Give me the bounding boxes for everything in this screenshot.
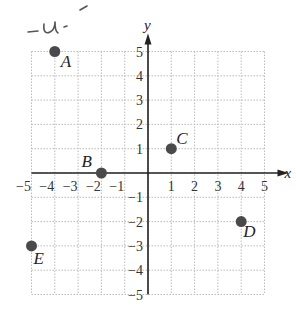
x-tick-label: 1 xyxy=(168,179,175,194)
point-label-b: B xyxy=(81,152,92,171)
y-tick-label: −5 xyxy=(128,288,143,303)
x-tick-label: −1 xyxy=(109,179,124,194)
y-tick-label: 4 xyxy=(136,69,143,84)
point-label-d: D xyxy=(242,222,256,241)
data-point-a xyxy=(49,46,60,57)
point-label-e: E xyxy=(33,249,45,268)
y-tick-label: −2 xyxy=(128,215,143,230)
x-tick-label: 3 xyxy=(214,179,221,194)
coordinate-plane: xy−5−4−3−2−11234554321−1−2−3−4−5ABCDE xyxy=(0,0,296,311)
y-tick-label: 5 xyxy=(136,45,143,60)
x-tick-label: 4 xyxy=(238,179,245,194)
y-tick-label: −3 xyxy=(128,239,143,254)
point-label-a: A xyxy=(60,52,72,71)
x-tick-label: −3 xyxy=(63,179,78,194)
data-point-b xyxy=(96,168,107,179)
x-tick-label: −4 xyxy=(39,179,54,194)
y-axis-arrow-icon xyxy=(145,34,152,45)
x-axis-label: x xyxy=(284,165,292,181)
x-tick-label: 2 xyxy=(191,179,198,194)
y-tick-label: 2 xyxy=(136,117,143,132)
point-label-c: C xyxy=(176,129,188,148)
y-tick-label: −1 xyxy=(128,190,143,205)
y-tick-label: −4 xyxy=(128,263,143,278)
data-point-c xyxy=(166,143,177,154)
x-tick-label: −5 xyxy=(16,179,31,194)
x-tick-label: −2 xyxy=(86,179,101,194)
handwritten-annotation xyxy=(28,6,87,33)
y-tick-label: 3 xyxy=(136,93,143,108)
y-tick-label: 1 xyxy=(136,142,143,157)
x-tick-label: 5 xyxy=(261,179,268,194)
y-axis-label: y xyxy=(142,17,151,33)
